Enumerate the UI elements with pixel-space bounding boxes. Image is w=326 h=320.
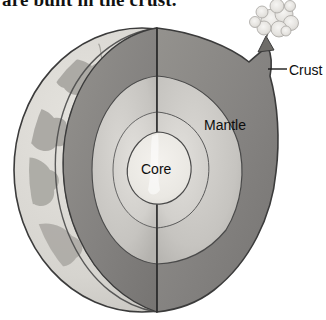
label-mantle: Mantle: [204, 117, 246, 133]
clipped-heading-strip: are built in the crust.: [0, 0, 326, 11]
earth-cutaway-illustration: [0, 0, 326, 320]
label-crust: Crust: [289, 62, 322, 78]
page-heading-text: are built in the crust.: [2, 0, 177, 11]
earth-cutaway-figure: Core Mantle Crust: [0, 0, 326, 320]
label-core: Core: [141, 161, 171, 177]
volcano-cone: [258, 36, 274, 52]
